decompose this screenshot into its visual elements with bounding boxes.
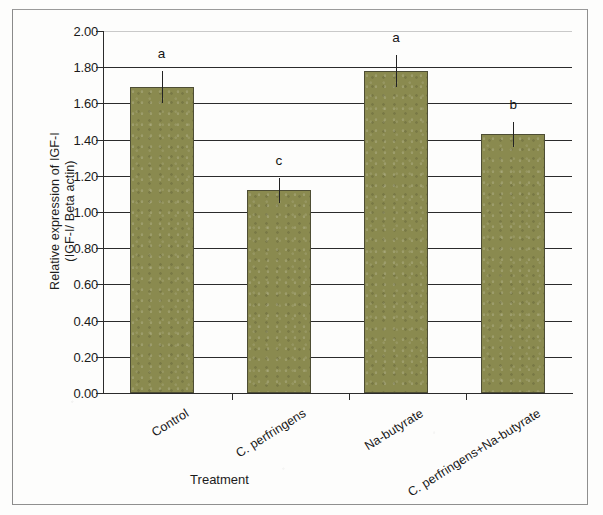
y-axis-tick-mark	[96, 393, 104, 394]
x-axis-tick-mark	[466, 393, 467, 400]
y-axis-tick-label: 0.40	[52, 313, 98, 328]
y-axis-tick-label: 2.00	[52, 24, 98, 39]
y-axis-tick-label: 1.20	[52, 168, 98, 183]
y-axis-tick-mark	[96, 284, 104, 285]
x-axis-title: Treatment	[0, 472, 603, 487]
y-axis-tick-mark	[96, 212, 104, 213]
x-axis-category-label: C. perfringens+Na-butyrate	[78, 406, 543, 515]
gridline	[103, 31, 572, 32]
x-axis-title-text: Treatment	[190, 472, 249, 487]
scanned-page: Relative expression of IGF-I (IGF-I/ Bet…	[0, 0, 603, 515]
error-bar	[162, 71, 163, 104]
bar-chart-figure: Relative expression of IGF-I (IGF-I/ Bet…	[0, 0, 603, 515]
significance-letter: b	[510, 97, 518, 112]
gridline	[103, 67, 572, 68]
y-axis-tick-mark	[96, 248, 104, 249]
error-bar	[513, 122, 514, 147]
plot-area	[103, 31, 572, 393]
y-axis-tick-label: 1.40	[52, 132, 98, 147]
y-axis-tick-mark	[96, 321, 104, 322]
y-axis-tick-label: 1.60	[52, 96, 98, 111]
bar	[247, 190, 311, 393]
x-axis-tick-mark	[232, 393, 233, 400]
y-axis-tick-mark	[96, 67, 104, 68]
significance-letter: a	[158, 46, 166, 61]
y-axis-tick-label: 1.80	[52, 60, 98, 75]
bar	[130, 87, 194, 393]
error-bar	[396, 55, 397, 88]
significance-letter: a	[392, 30, 400, 45]
y-axis-tick-mark	[96, 176, 104, 177]
y-axis-tick-label: 0.20	[52, 349, 98, 364]
bar	[481, 134, 545, 393]
y-axis-tick-label: 0.60	[52, 277, 98, 292]
x-axis-line	[103, 393, 573, 394]
x-axis-tick-mark	[349, 393, 350, 400]
y-axis-tick-mark	[96, 357, 104, 358]
y-axis-tick-mark	[96, 31, 104, 32]
y-axis-tick-mark	[96, 140, 104, 141]
bar	[364, 71, 428, 393]
y-axis-tick-label: 0.80	[52, 241, 98, 256]
y-axis-tick-mark	[96, 103, 104, 104]
significance-letter: c	[276, 153, 283, 168]
y-axis-tick-labels: 0.000.200.400.600.801.001.201.401.601.80…	[52, 0, 98, 515]
error-bar	[279, 178, 280, 203]
y-axis-tick-label: 0.00	[52, 386, 98, 401]
y-axis-tick-label: 1.00	[52, 205, 98, 220]
